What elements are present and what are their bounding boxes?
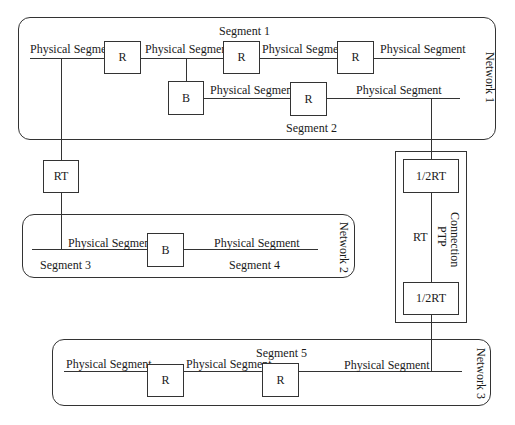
network-2-label: Network 2 [338, 222, 350, 273]
physical-segment-label: Physical Segment [210, 84, 296, 96]
router-node: R [104, 41, 141, 74]
bridge-connector-line [186, 58, 187, 81]
segment-3-label: Segment 3 [40, 259, 91, 271]
physical-segment-label: Physical Segment [356, 84, 442, 96]
physical-segment-label: Physical Segment [66, 358, 152, 370]
rt-uplink-line [61, 58, 62, 160]
network-3-label: Network 3 [475, 348, 487, 399]
physical-segment-label: Physical Segment [186, 358, 272, 370]
router-node: R [262, 363, 299, 397]
half-rt-node-bottom: 1/2RT [403, 282, 459, 315]
rt-link-line [431, 193, 432, 282]
segment-2-line [204, 98, 460, 99]
bridge-node: B [168, 81, 204, 115]
physical-segment-label: Physical Segment [145, 43, 231, 55]
half-rt-node-top: 1/2RT [403, 159, 459, 193]
physical-segment-label: Physical Segment [262, 43, 348, 55]
segment-2-label: Segment 2 [286, 122, 337, 134]
segment-1-label: Segment 1 [219, 25, 270, 37]
router-node: R [147, 364, 184, 397]
remote-router-node: RT [43, 160, 79, 193]
network-1-label: Network 1 [484, 52, 496, 103]
physical-segment-label: Physical Segment [30, 43, 116, 55]
ptp-label: PTP [436, 226, 448, 247]
connection-label: Connection [449, 212, 461, 267]
physical-segment-label: Physical Segment [68, 237, 154, 249]
router-node: R [223, 41, 260, 74]
segment-4-label: Segment 4 [229, 259, 280, 271]
router-node: R [290, 82, 327, 116]
rt-link-label: RT [413, 231, 428, 243]
ptp-uplink-line [431, 98, 432, 159]
bridge-node: B [147, 233, 184, 267]
physical-segment-label: Physical Segment [344, 359, 430, 371]
router-node: R [337, 41, 374, 74]
physical-segment-label: Physical Segment [214, 237, 300, 249]
physical-segment-label: Physical Segment [380, 43, 466, 55]
